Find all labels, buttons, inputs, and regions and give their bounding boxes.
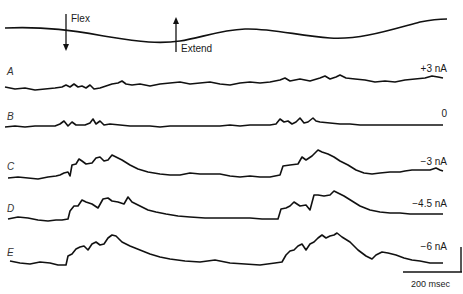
figure-panel: Flex Extend A B C D E +3 nA 0 −3 nA −4.5… — [0, 0, 463, 294]
trace-letter-d: D — [7, 203, 14, 214]
extend-label: Extend — [181, 43, 212, 54]
trace-d — [8, 191, 443, 221]
flex-arrow-icon — [63, 14, 69, 51]
trace-letter-e: E — [7, 247, 14, 258]
scale-bar-time-label: 200 msec — [411, 279, 450, 289]
traces-svg — [0, 0, 463, 294]
trace-a — [5, 75, 443, 90]
trace-e — [10, 233, 443, 265]
trace-letter-a: A — [7, 66, 14, 77]
current-label-a: +3 nA — [421, 63, 447, 74]
trace-c — [8, 150, 443, 179]
extend-arrow-icon — [173, 17, 179, 52]
current-label-e: −6 nA — [421, 241, 447, 252]
trace-letter-b: B — [7, 111, 14, 122]
flex-label: Flex — [71, 13, 90, 24]
trace-b — [5, 118, 443, 127]
current-label-d: −4.5 nA — [412, 198, 447, 209]
current-label-c: −3 nA — [421, 156, 447, 167]
current-label-b: 0 — [441, 108, 447, 119]
trace-letter-c: C — [7, 161, 14, 172]
